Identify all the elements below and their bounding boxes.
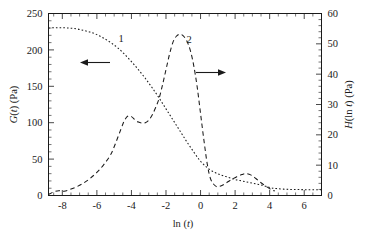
y-axis-tick-labels: 050100150200250	[27, 8, 43, 201]
left-axis-pointer-arrow	[80, 59, 110, 65]
tick-label: -6	[93, 200, 102, 211]
tick-label: 10	[328, 160, 339, 171]
tick-label: 6	[302, 200, 307, 211]
y2-axis-tick-labels: 0102030405060	[328, 8, 339, 201]
y-axis-title: G(t) (Pa)	[8, 85, 20, 123]
tick-label: 0	[37, 190, 42, 201]
tick-label: 0	[198, 200, 203, 211]
tick-label: 2	[232, 200, 237, 211]
tick-label: 50	[328, 38, 339, 49]
tick-label: 40	[328, 69, 339, 80]
tick-label: 100	[27, 117, 43, 128]
tick-label: 250	[27, 8, 43, 19]
y-axis-major-ticks	[49, 14, 55, 196]
tick-label: 30	[328, 99, 339, 110]
tick-label: 50	[32, 154, 43, 165]
tick-label: 0	[328, 190, 333, 201]
series-curve-2	[49, 34, 275, 194]
x-axis-tick-labels: -8-6-4-20246	[58, 200, 307, 211]
right-axis-pointer-arrow	[196, 69, 226, 75]
tick-label: 200	[27, 45, 43, 56]
tick-label: -4	[127, 200, 136, 211]
y2-axis-major-ticks	[316, 14, 322, 196]
curve-label-2: 2	[186, 34, 191, 45]
curve-label-1: 1	[118, 33, 123, 44]
tick-label: 60	[328, 8, 339, 19]
tick-label: 4	[267, 200, 273, 211]
tick-label: -8	[58, 200, 67, 211]
plot-frame	[49, 14, 322, 196]
series-curve-1	[49, 28, 322, 190]
tick-label: -2	[162, 200, 171, 211]
x-axis-title: ln (t)	[173, 218, 194, 230]
tick-label: 150	[27, 81, 43, 92]
chart-canvas: -8-6-4-20246 050100150200250 01020304050…	[0, 0, 366, 235]
y2-axis-title: H(ln t) (Pa)	[343, 80, 355, 130]
tick-label: 20	[328, 129, 339, 140]
chart-figure: -8-6-4-20246 050100150200250 01020304050…	[0, 0, 366, 235]
x-axis-major-ticks	[62, 14, 304, 196]
